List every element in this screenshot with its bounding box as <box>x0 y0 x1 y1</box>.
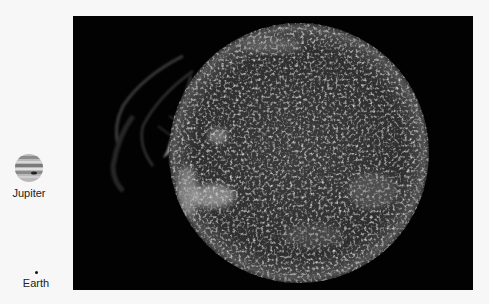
sun-image-panel <box>73 16 473 290</box>
earth-dot-icon <box>35 271 38 274</box>
legend-earth: Earth <box>16 270 56 289</box>
jupiter-label: Jupiter <box>12 187 45 199</box>
jupiter-icon <box>14 153 44 183</box>
earth-label: Earth <box>23 277 49 289</box>
legend-jupiter: Jupiter <box>6 153 52 199</box>
sun-illustration <box>73 16 473 290</box>
